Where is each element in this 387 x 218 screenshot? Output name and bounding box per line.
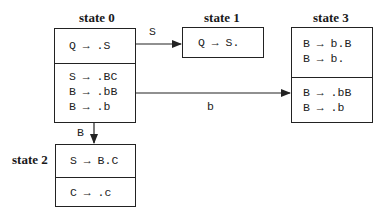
item: B → b.: [303, 52, 344, 65]
item: B → .b: [303, 101, 344, 114]
state0-kernel: Q → .S: [55, 29, 135, 63]
state2-closure: C → .c: [56, 177, 135, 206]
state3-closure: B → .bB B → .b: [292, 77, 372, 122]
item: Q → S.: [198, 36, 239, 49]
state3-kernel: B → b.B B → b.: [292, 28, 372, 77]
state2-title: state 2: [12, 152, 48, 168]
state0-closure: S → .BC B → .bB B → .b: [55, 63, 135, 122]
item: Q → .S: [69, 39, 110, 52]
state0-box: Q → .S S → .BC B → .bB B → .b: [54, 28, 136, 123]
item: S → B.C: [70, 154, 118, 167]
transition-label-S: S: [149, 25, 156, 38]
transition-label-b: b: [207, 100, 214, 113]
state2-kernel: S → B.C: [56, 145, 135, 177]
state2-box: S → B.C C → .c: [55, 144, 136, 207]
transition-label-B: B: [77, 126, 84, 139]
state3-title: state 3: [313, 10, 349, 26]
item: B → .bB: [69, 85, 117, 98]
state1-box: Q → S.: [182, 27, 264, 58]
state0-title: state 0: [79, 10, 115, 26]
state1-title: state 1: [204, 10, 240, 26]
item: C → .c: [70, 186, 111, 199]
item: B → .b: [69, 100, 110, 113]
item: S → .BC: [69, 70, 117, 83]
state3-box: B → b.B B → b. B → .bB B → .b: [291, 27, 373, 123]
item: B → .bB: [303, 86, 351, 99]
item: B → b.B: [303, 37, 351, 50]
